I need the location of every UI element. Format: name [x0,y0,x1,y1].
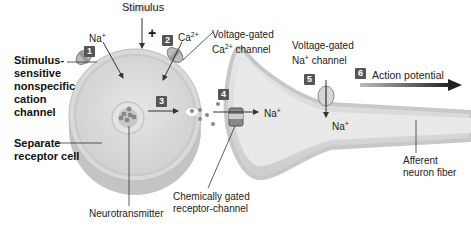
stimulus-label: Stimulus [122,1,164,13]
voltage-gated-na-channel-label: Voltage-gated Na+ channel [292,40,354,67]
action-potential-label: Action potential [372,69,444,81]
neurotransmitter-label: Neurotransmitter [89,208,163,220]
stimulus-sensitive-channel-label: Stimulus- sensitive nonspecific cation c… [14,54,75,119]
step-badge-3: 3 [156,96,167,107]
step-badge-6: 6 [355,68,366,79]
na-ion-label: Na+ [89,30,106,45]
separate-receptor-cell-label: Separate receptor cell [14,137,79,163]
step-badge-1: 1 [84,46,95,57]
step-badge-2: 2 [162,35,173,46]
afferent-neuron-fiber-label: Afferent neuron fiber [403,155,456,179]
plus-sign: + [148,27,156,40]
na-ion-label-step4: Na+ [264,105,281,120]
chemically-gated-channel-label: Chemically gated receptor-channel [173,191,250,215]
ca-ion-label: Ca2+ [178,29,199,44]
step-badge-5: 5 [304,74,315,85]
na-ion-label-step5: Na+ [332,118,349,133]
voltage-gated-ca-channel-label: Voltage-gated Ca2+ channel [212,29,274,56]
step-badge-4: 4 [218,89,229,100]
